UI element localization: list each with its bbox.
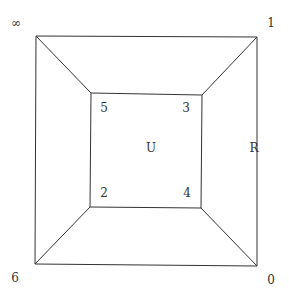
edge-inf-five [36,36,91,93]
edge-two-five [90,93,91,207]
edge-one-three [202,37,257,95]
vertex-label-zero: 0 [267,273,275,287]
vertex-label-one: 1 [267,16,275,30]
region-label-U: U [146,141,156,155]
edge-five-three [91,93,202,95]
edge-zero-four [201,208,257,266]
labels: ∞1065342UR [11,16,275,287]
edge-zero-six [35,264,257,266]
diagram-canvas: ∞1065342UR [0,0,289,297]
vertex-label-five: 5 [100,101,108,115]
edge-six-inf [35,36,36,264]
region-label-R: R [249,141,259,155]
edge-six-two [35,207,90,264]
edge-three-four [201,95,202,208]
vertex-label-inf: ∞ [11,16,21,30]
vertex-label-three: 3 [182,101,190,115]
edge-inf-one [36,36,257,37]
vertex-label-six: 6 [11,271,19,285]
edge-four-two [90,207,201,208]
vertex-label-two: 2 [100,186,108,200]
vertex-label-four: 4 [183,186,191,200]
